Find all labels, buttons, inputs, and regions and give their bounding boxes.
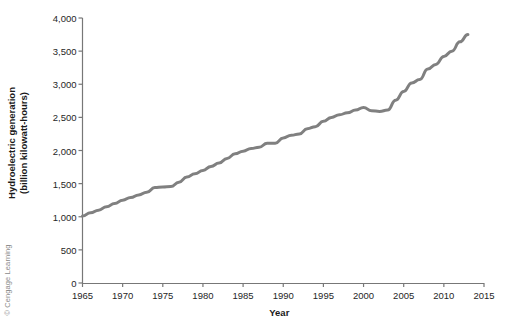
data-line-hydroelectric: [83, 35, 468, 217]
plot-area: [0, 0, 525, 333]
x-tick-label: 2005: [382, 290, 426, 301]
x-tick-label: 2015: [462, 290, 506, 301]
x-tick-label: 1990: [261, 290, 305, 301]
y-tick-label: 2,000: [35, 145, 77, 156]
y-tick-label: 3,500: [35, 46, 77, 57]
x-tick-label: 1965: [61, 290, 105, 301]
x-tick-label: 1970: [101, 290, 145, 301]
x-tick-label: 2000: [342, 290, 386, 301]
x-tick-label: 1975: [141, 290, 185, 301]
y-tick-label: 4,000: [35, 13, 77, 24]
y-tick-label: 2,500: [35, 112, 77, 123]
y-tick-label: 0: [35, 278, 77, 289]
y-tick-label: 3,000: [35, 79, 77, 90]
y-tick-label: 1,500: [35, 178, 77, 189]
x-tick-label: 1995: [301, 290, 345, 301]
y-tick-label: 500: [35, 244, 77, 255]
x-tick-label: 1985: [221, 290, 265, 301]
x-tick-label: 1980: [181, 290, 225, 301]
x-tick-label: 2010: [422, 290, 466, 301]
chart-figure: © Cengage Learning Hydroelectric generat…: [0, 0, 525, 333]
x-axis-title: Year: [269, 307, 289, 318]
y-tick-label: 1,000: [35, 211, 77, 222]
